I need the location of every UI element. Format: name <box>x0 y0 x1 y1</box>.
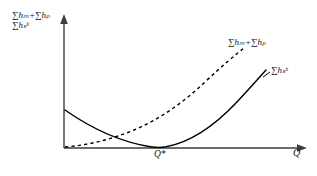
y-axis-title-line1: ∑hₘ+∑hₚ <box>12 11 50 20</box>
curve-label-sum-h-sb: ∑hₛᵇ <box>271 66 287 75</box>
curve-label-sum-h-m-plus-h-p: ∑hₘ+∑hₚ <box>228 38 266 47</box>
curve-sum-h-sb <box>65 70 266 147</box>
curve-sum-h-m-plus-h-p <box>65 48 244 147</box>
x-axis-tick-label-q-star: Q* <box>154 150 166 160</box>
y-axis-title: ∑hₘ+∑hₚ ∑hₛᵇ <box>12 11 50 31</box>
x-axis-title: Q <box>293 148 300 159</box>
y-axis-arrowhead-icon <box>60 14 68 24</box>
figure-canvas: ∑hₘ+∑hₚ ∑hₛᵇ ∑hₘ+∑hₚ ∑hₛᵇ Q* Q <box>0 0 317 176</box>
y-axis-title-line2: ∑hₛᵇ <box>12 21 50 30</box>
